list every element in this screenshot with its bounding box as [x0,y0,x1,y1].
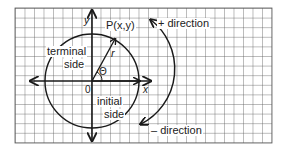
terminal-side-label: side [63,59,85,70]
plus-direction-label: + direction [157,18,210,29]
angle-label: Θ [98,66,108,77]
initial-side-label: side [103,109,125,120]
point-label: P(x,y) [105,20,136,31]
y-axis-label: y [83,15,91,26]
terminal-label: terminal [46,46,87,57]
origin-label: 0 [84,84,92,95]
minus-direction-label: – direction [150,125,203,136]
unit-circle-diagram [0,0,287,153]
x-axis-label: x [142,84,149,95]
radius-label: r [110,48,116,59]
initial-label: initial [96,96,123,107]
